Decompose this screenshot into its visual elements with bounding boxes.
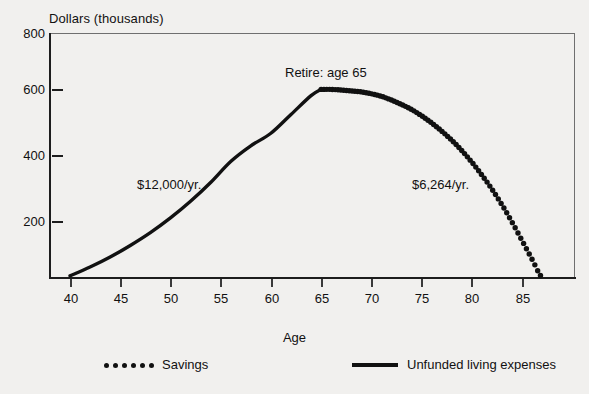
x-tick-mark-45 [120,279,122,287]
y-axis-line [49,33,51,279]
chart-legend: Savings Unfunded living expenses [0,358,589,384]
y-tick-mark-200 [52,221,63,223]
solid-line-swatch-icon [352,363,398,367]
y-axis-title: Dollars (thousands) [49,11,164,26]
legend-dot [131,363,136,368]
x-tick-mark-70 [371,279,373,287]
x-tick-mark-60 [271,279,273,287]
y-tick-label-600: 600 [5,83,45,96]
x-tick-label-80: 80 [457,292,487,305]
x-tick-mark-75 [421,279,423,287]
legend-label-unfunded-living-expenses: Unfunded living expenses [407,358,556,372]
legend-dot [149,363,154,368]
y-tick-label-400: 400 [5,149,45,162]
legend-item-unfunded-living-expenses[interactable]: Unfunded living expenses [352,358,556,372]
legend-item-savings[interactable]: Savings [104,358,208,372]
x-tick-label-75: 75 [407,292,437,305]
y-tick-mark-600 [52,89,63,91]
annotation-withdrawal: $6,264/yr. [412,178,469,192]
x-tick-label-85: 85 [508,292,538,305]
x-tick-mark-80 [471,279,473,287]
dotted-line-swatch-icon [104,363,154,368]
y-tick-label-200: 200 [5,215,45,228]
x-tick-label-65: 65 [307,292,337,305]
legend-dot [104,363,109,368]
x-tick-label-40: 40 [56,292,86,305]
x-tick-mark-55 [220,279,222,287]
legend-label-savings: Savings [162,358,208,372]
y-tick-label-800: 800 [5,27,45,40]
x-axis-line [49,277,576,279]
x-tick-mark-50 [170,279,172,287]
x-tick-mark-40 [70,279,72,287]
annotation-retire: Retire: age 65 [285,66,367,80]
x-tick-mark-65 [321,279,323,287]
x-tick-label-50: 50 [156,292,186,305]
x-tick-mark-85 [522,279,524,287]
legend-dot [113,363,118,368]
legend-dot [122,363,127,368]
annotation-contribution: $12,000/yr. [137,178,201,192]
x-tick-label-45: 45 [106,292,136,305]
legend-dot [140,363,145,368]
x-tick-label-55: 55 [206,292,236,305]
y-tick-mark-400 [52,155,63,157]
x-tick-label-60: 60 [257,292,287,305]
x-tick-label-70: 70 [357,292,387,305]
x-axis-title: Age [0,331,589,345]
chart-canvas: Dollars (thousands) 800 600 400 200 40 4… [0,0,589,394]
